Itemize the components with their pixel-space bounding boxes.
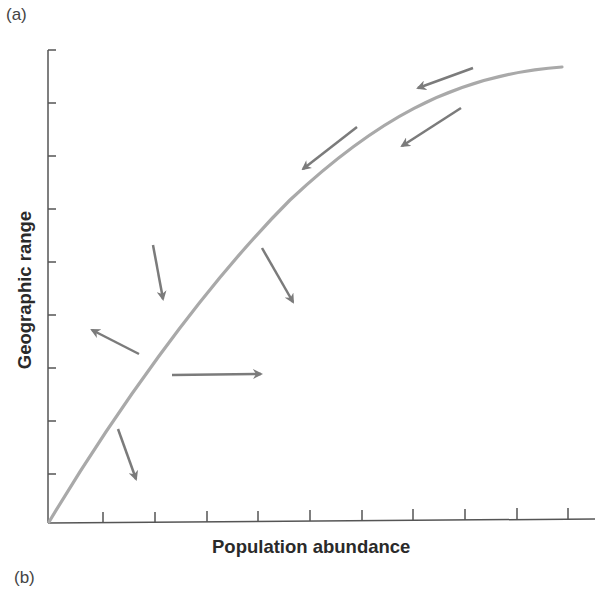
y-axis-label: Geographic range <box>14 211 36 369</box>
x-axis-label: Population abundance <box>212 536 410 558</box>
arrow-icon <box>118 429 136 479</box>
arrow-icon <box>92 330 139 354</box>
x-axis <box>48 508 595 523</box>
arrow-icon <box>262 248 293 302</box>
arrow-icon <box>303 127 357 169</box>
arrow-icon <box>172 374 261 375</box>
arrow-icon <box>402 108 461 146</box>
plot-area <box>0 0 603 601</box>
y-axis <box>48 50 56 523</box>
arrow-icon <box>153 245 163 299</box>
panel-label-b: (b) <box>14 568 35 588</box>
